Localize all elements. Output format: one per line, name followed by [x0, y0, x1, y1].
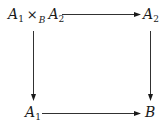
arrow-top-right: [62, 12, 141, 17]
arrow-right-down: [148, 31, 153, 101]
arrow-left-down: [31, 31, 36, 101]
arrows-layer: [0, 0, 166, 126]
arrow-bottom-right: [42, 111, 141, 116]
